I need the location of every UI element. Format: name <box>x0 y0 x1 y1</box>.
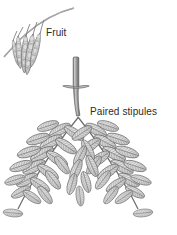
label-paired-stipules: Paired stipules <box>90 106 157 117</box>
botanical-illustration: Fruit Paired stipules <box>0 0 177 235</box>
illustration-canvas: Fruit Paired stipules <box>0 0 177 235</box>
stem-upper <box>73 57 79 87</box>
label-fruit: Fruit <box>46 27 67 38</box>
